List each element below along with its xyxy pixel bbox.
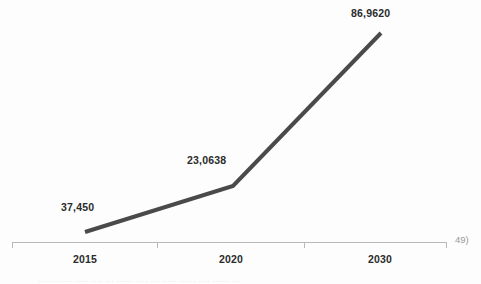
series-line-path — [85, 33, 381, 232]
data-label-2015: 37,450 — [61, 202, 94, 213]
data-label-2030: 86,9620 — [351, 8, 390, 19]
line-chart-figure: 37,450 23,0638 86,9620 2015 2020 2030 49… — [0, 0, 481, 284]
chart-plot-area — [0, 0, 481, 284]
x-tick-label-2020: 2020 — [206, 254, 256, 265]
x-tick-label-2030: 2030 — [355, 254, 405, 265]
data-label-2020: 23,0638 — [187, 155, 226, 166]
x-tick-label-2015: 2015 — [60, 254, 110, 265]
page-bottom-text-artifact: ............ ..... .... ... ...... .... … — [38, 276, 438, 283]
footnote-marker: 49) — [455, 235, 469, 245]
